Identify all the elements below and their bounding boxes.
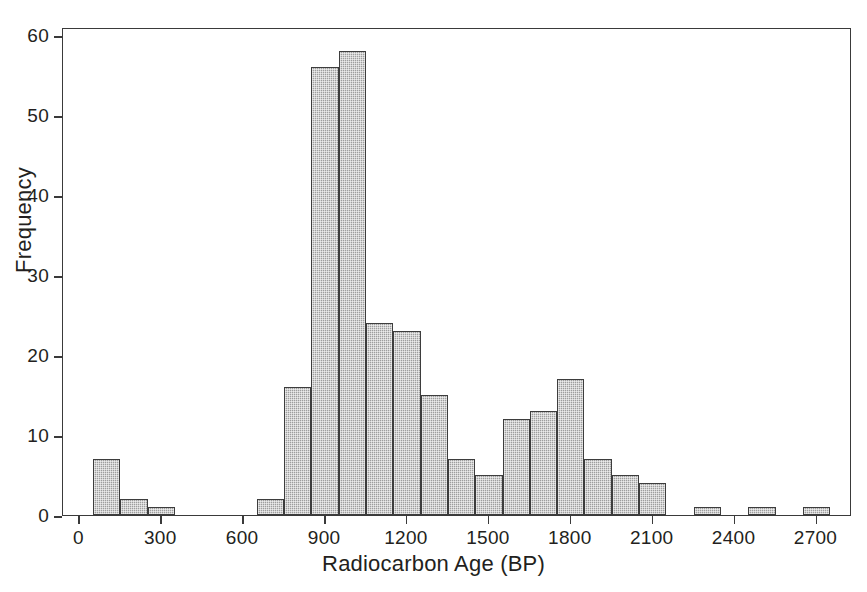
y-axis-tick (54, 36, 62, 38)
histogram-bar (584, 459, 611, 515)
histogram-bar (120, 499, 147, 515)
x-axis-tick-label: 600 (226, 527, 259, 549)
y-axis-tick (54, 116, 62, 118)
histogram-bar (339, 51, 366, 515)
histogram-bar (311, 67, 338, 515)
x-axis-tick-label: 1800 (548, 527, 591, 549)
y-axis-tick (54, 356, 62, 358)
x-axis-tick (652, 516, 654, 524)
histogram-bar (694, 507, 721, 515)
x-axis-tick-label: 2400 (712, 527, 755, 549)
x-axis-tick (324, 516, 326, 524)
x-axis-tick (78, 516, 80, 524)
histogram-figure: 0300600900120015001800210024002700 01020… (0, 0, 867, 592)
x-axis-tick (406, 516, 408, 524)
x-axis-title: Radiocarbon Age (BP) (0, 551, 867, 577)
x-axis-tick-label: 900 (308, 527, 341, 549)
y-axis-tick-label: 0 (38, 505, 49, 527)
histogram-bar (530, 411, 557, 515)
y-axis-tick (54, 196, 62, 198)
y-axis-title: Frequency (11, 70, 37, 370)
histogram-bar (748, 507, 775, 515)
histogram-bar (612, 475, 639, 515)
histogram-bar (257, 499, 284, 515)
plot-area (63, 29, 850, 515)
x-axis-tick (734, 516, 736, 524)
histogram-bar (366, 323, 393, 515)
y-axis-tick-label: 60 (27, 25, 49, 47)
histogram-bar (557, 379, 584, 515)
histogram-bar (639, 483, 666, 515)
plot-frame (62, 28, 851, 516)
x-axis-tick (816, 516, 818, 524)
x-axis-tick (160, 516, 162, 524)
x-axis-tick-label: 1500 (466, 527, 509, 549)
histogram-bar (475, 475, 502, 515)
x-axis-tick (570, 516, 572, 524)
histogram-bar (803, 507, 830, 515)
histogram-bar (93, 459, 120, 515)
x-axis-tick-label: 300 (144, 527, 177, 549)
histogram-bar (284, 387, 311, 515)
y-axis-tick (54, 276, 62, 278)
x-axis-tick (242, 516, 244, 524)
histogram-bar (503, 419, 530, 515)
histogram-bar (148, 507, 175, 515)
histogram-bar (448, 459, 475, 515)
histogram-bar (421, 395, 448, 515)
x-axis-tick-label: 2700 (794, 527, 837, 549)
x-axis-tick-label: 0 (73, 527, 84, 549)
y-axis-tick-label: 10 (27, 425, 49, 447)
y-axis-tick (54, 516, 62, 518)
x-axis-tick-label: 2100 (630, 527, 673, 549)
y-axis-tick (54, 436, 62, 438)
x-axis-tick-label: 1200 (384, 527, 427, 549)
x-axis-tick (488, 516, 490, 524)
histogram-bar (393, 331, 420, 515)
